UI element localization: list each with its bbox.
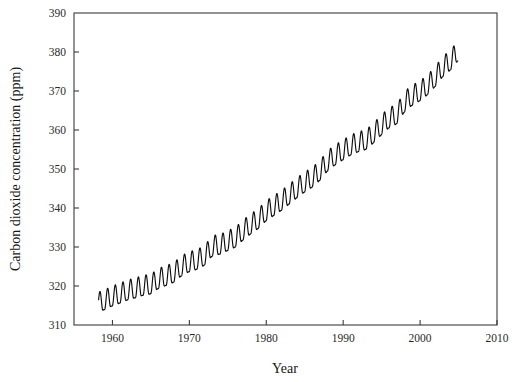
co2-line-chart: 310320330340350360370380390 196019701980… bbox=[0, 0, 515, 382]
chart-figure: 310320330340350360370380390 196019701980… bbox=[0, 0, 515, 382]
y-tick-label: 340 bbox=[49, 202, 67, 214]
x-tick-label: 1960 bbox=[101, 332, 124, 344]
x-axis-title: Year bbox=[272, 361, 298, 376]
x-tick-label: 1990 bbox=[332, 332, 355, 344]
y-axis-tick-labels: 310320330340350360370380390 bbox=[49, 7, 67, 331]
x-tick-label: 2000 bbox=[409, 332, 432, 344]
y-tick-label: 380 bbox=[49, 46, 67, 58]
y-axis-title: Carbon dioxide concentration (ppm) bbox=[8, 67, 24, 271]
y-tick-label: 350 bbox=[49, 163, 67, 175]
y-tick-label: 360 bbox=[49, 124, 67, 136]
y-tick-label: 330 bbox=[49, 241, 67, 253]
y-tick-label: 370 bbox=[49, 85, 67, 97]
x-tick-label: 1980 bbox=[255, 332, 278, 344]
x-tick-label: 2010 bbox=[486, 332, 509, 344]
y-tick-label: 310 bbox=[49, 319, 67, 331]
y-tick-label: 390 bbox=[49, 7, 67, 19]
x-tick-label: 1970 bbox=[178, 332, 201, 344]
y-tick-label: 320 bbox=[49, 280, 67, 292]
